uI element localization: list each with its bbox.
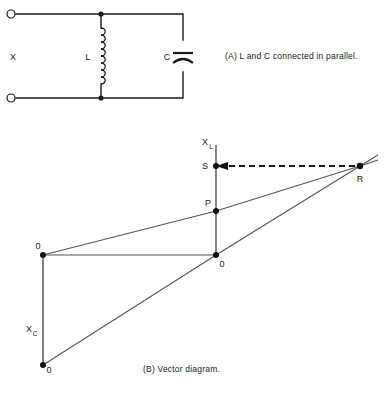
inductor-label: L xyxy=(85,52,90,62)
capacitor-plate-bottom xyxy=(173,59,193,63)
point-r-dot xyxy=(357,163,363,169)
point-s-dot xyxy=(213,163,219,169)
axis-label-xc: X xyxy=(26,324,32,334)
point-label-origin-bottom: 0 xyxy=(46,365,51,375)
point-label-origin-left: 0 xyxy=(35,241,40,251)
figure-container: X L C xyxy=(0,0,386,393)
point-p-dot xyxy=(213,208,219,214)
axis-label-xc-subscript: C xyxy=(33,330,38,337)
axis-label-xl: X xyxy=(202,137,208,147)
point-origin-center-dot xyxy=(213,252,219,258)
inductor-coil xyxy=(101,28,105,84)
caption-panel-b: (B) Vector diagram. xyxy=(143,364,220,374)
capacitor-label: C xyxy=(164,52,171,62)
point-origin-left-dot xyxy=(40,252,46,258)
top-wire xyxy=(16,14,183,40)
bottom-wire xyxy=(16,72,183,98)
panel-a-circuit: X L C xyxy=(7,10,358,102)
terminal-bottom xyxy=(7,94,15,102)
junction-dot-bottom xyxy=(98,95,103,100)
technical-figure: X L C xyxy=(0,0,386,393)
point-origin-bottom-dot xyxy=(40,362,46,368)
terminal-top xyxy=(7,10,15,18)
point-label-r: R xyxy=(357,174,364,184)
panel-b-vector-diagram: X L X C S P R xyxy=(26,137,378,375)
point-label-origin-center: 0 xyxy=(219,259,224,269)
terminal-label-x: X xyxy=(10,52,16,62)
line-bottom-origin-to-r xyxy=(43,155,378,365)
point-label-p: P xyxy=(205,198,211,208)
junction-dot-top xyxy=(98,11,103,16)
caption-panel-a: (A) L and C connected in parallel. xyxy=(225,51,358,61)
axis-label-xl-subscript: L xyxy=(209,143,213,150)
point-label-s: S xyxy=(202,161,208,171)
